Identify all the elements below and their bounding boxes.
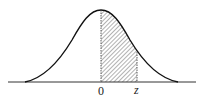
origin-label: 0 [98, 85, 104, 97]
z-label: z [134, 84, 139, 96]
